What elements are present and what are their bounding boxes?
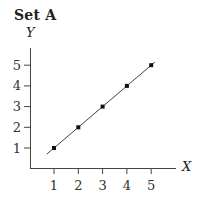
y-tick-label: 1 <box>13 141 21 156</box>
x-tick-label: 5 <box>147 178 155 193</box>
x-ticks: 12345 <box>50 168 155 193</box>
y-tick-label: 2 <box>13 120 21 135</box>
x-tick-label: 1 <box>50 178 58 193</box>
data-point <box>125 84 129 88</box>
data-point <box>101 105 105 109</box>
data-point <box>52 146 56 150</box>
y-tick-label: 5 <box>13 58 21 73</box>
x-tick-label: 4 <box>123 178 131 193</box>
data-point <box>149 63 153 67</box>
y-ticks: 12345 <box>13 58 31 156</box>
y-tick-label: 4 <box>13 78 21 93</box>
x-tick-label: 2 <box>74 178 82 193</box>
scatter-plot: 12345 12345 <box>0 0 203 204</box>
x-tick-label: 3 <box>98 178 106 193</box>
data-point <box>76 125 80 129</box>
y-tick-label: 3 <box>13 99 21 114</box>
